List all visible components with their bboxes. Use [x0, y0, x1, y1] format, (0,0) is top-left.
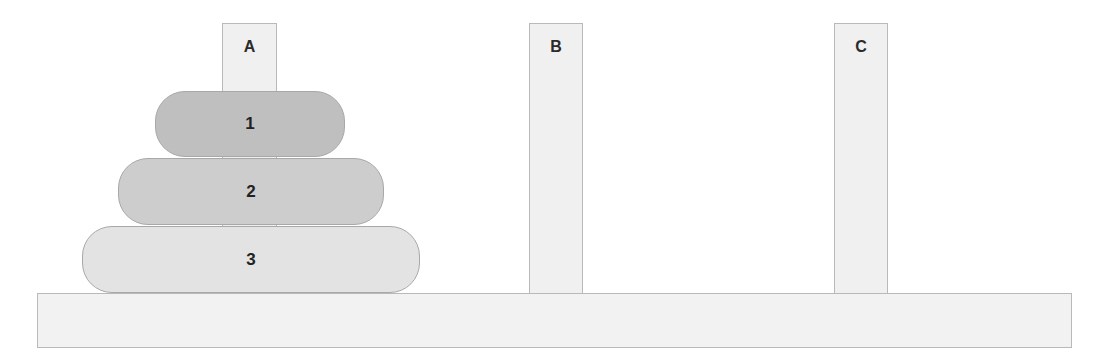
peg-b[interactable]: B [529, 23, 583, 294]
disc-3-label: 3 [246, 250, 255, 270]
peg-c-label: C [835, 38, 887, 56]
base-platform [37, 293, 1072, 348]
peg-b-label: B [530, 38, 582, 56]
disc-3[interactable]: 3 [82, 226, 420, 293]
peg-c[interactable]: C [834, 23, 888, 294]
disc-1-label: 1 [245, 114, 254, 134]
disc-1[interactable]: 1 [155, 91, 345, 157]
disc-2-label: 2 [246, 182, 255, 202]
peg-a-label: A [223, 38, 276, 56]
disc-2[interactable]: 2 [118, 158, 384, 225]
